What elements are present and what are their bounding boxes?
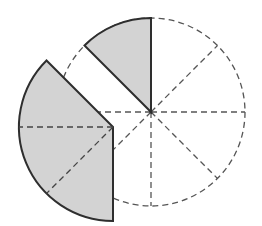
shaded-sector-top bbox=[85, 18, 152, 112]
sector-diagram bbox=[0, 0, 262, 226]
original-center-point bbox=[150, 111, 153, 114]
displaced-shaded-piece bbox=[19, 61, 113, 222]
